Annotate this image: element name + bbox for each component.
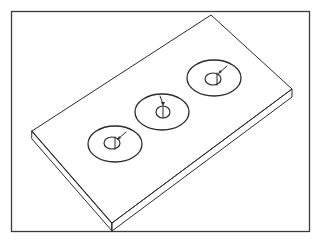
figure-frame	[12, 12, 310, 232]
plate-diagram	[0, 0, 317, 242]
